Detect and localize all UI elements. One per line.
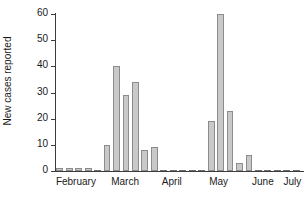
bar	[283, 170, 290, 171]
bar	[160, 170, 167, 171]
y-tick-label: 0	[42, 164, 48, 175]
y-axis-title: New cases reported	[2, 0, 14, 166]
bar	[208, 121, 215, 171]
bar	[85, 168, 92, 171]
bar	[170, 170, 177, 171]
bar	[198, 170, 205, 171]
x-axis-line	[55, 171, 304, 172]
y-tick-label: 20	[37, 112, 48, 123]
y-tick-label: 50	[37, 33, 48, 44]
bar	[189, 170, 196, 171]
bar	[151, 147, 158, 171]
bar	[56, 168, 63, 171]
y-tick-mark	[51, 171, 55, 172]
bar	[141, 150, 148, 171]
bar	[123, 95, 130, 171]
bar	[75, 168, 82, 171]
bar	[274, 170, 281, 171]
bar	[94, 170, 101, 171]
month-label-july: July	[262, 176, 307, 187]
plot-area	[55, 14, 301, 171]
bar	[132, 82, 139, 171]
bar	[246, 155, 253, 171]
bar	[264, 170, 271, 171]
y-tick-label: 40	[37, 59, 48, 70]
bar	[293, 170, 300, 171]
bar	[66, 168, 73, 171]
bar	[236, 163, 243, 171]
epidemic-curve-chart: New cases reported 0102030405060 Februar…	[0, 0, 307, 198]
bar	[179, 170, 186, 171]
bar	[113, 66, 120, 171]
y-tick-label: 60	[37, 7, 48, 18]
y-tick-label: 30	[37, 86, 48, 97]
bar	[227, 111, 234, 171]
bar	[255, 170, 262, 171]
bar	[104, 145, 111, 171]
y-tick-label: 10	[37, 138, 48, 149]
bar	[217, 14, 224, 171]
